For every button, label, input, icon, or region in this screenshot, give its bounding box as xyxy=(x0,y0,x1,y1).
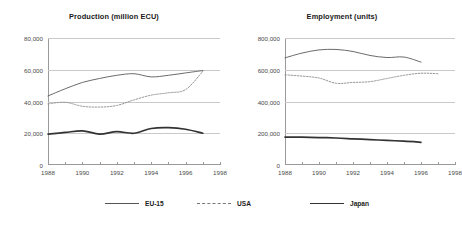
plot-area-employment: 0200,000400,000600,000800,000 1988199019… xyxy=(285,38,455,165)
y-tick-label: 20,000 xyxy=(24,130,43,137)
y-tick-label: 80,000 xyxy=(24,35,43,42)
x-tick xyxy=(220,162,221,165)
x-tick-label: 1990 xyxy=(76,169,90,176)
x-tick-label: 1988 xyxy=(278,169,292,176)
x-tick-label: 1994 xyxy=(144,169,158,176)
legend-item-usa: USA xyxy=(197,196,251,210)
chart-panel-production: Production (million ECU) 020,00040,00060… xyxy=(0,0,228,185)
chart-panel-employment: Employment (units) 0200,000400,000600,00… xyxy=(228,0,456,185)
y-tick-label: 60,000 xyxy=(24,66,43,73)
x-tick-label: 1998 xyxy=(448,169,462,176)
legend-label-usa: USA xyxy=(237,200,251,207)
legend-line-icon-eu15 xyxy=(105,200,139,206)
x-tick xyxy=(455,162,456,165)
chart-title-employment: Employment (units) xyxy=(228,12,456,21)
plot-area-production: 020,00040,00060,00080,000 19881990199219… xyxy=(48,38,220,165)
y-tick-label: 600,000 xyxy=(258,66,280,73)
y-tick-label: 200,000 xyxy=(258,130,280,137)
y-tick-label: 0 xyxy=(40,162,43,169)
legend-label-japan: Japan xyxy=(350,200,369,207)
series-line-japan xyxy=(48,128,203,134)
legend-line-icon-usa xyxy=(197,200,231,206)
series-line-usa xyxy=(48,71,203,107)
series-line-eu-15 xyxy=(285,49,421,62)
x-tick-label: 1988 xyxy=(41,169,55,176)
y-tick-label: 400,000 xyxy=(258,98,280,105)
legend-label-eu15: EU-15 xyxy=(145,200,164,207)
x-tick-label: 1992 xyxy=(110,169,124,176)
legend: EU-15 USA Japan xyxy=(0,196,456,214)
series-line-japan xyxy=(285,137,421,142)
legend-item-eu15: EU-15 xyxy=(105,196,164,210)
series-lines-production xyxy=(48,38,220,165)
x-tick-label: 1990 xyxy=(312,169,326,176)
series-line-usa xyxy=(285,73,438,83)
legend-item-japan: Japan xyxy=(310,196,369,210)
series-lines-employment xyxy=(285,38,455,165)
y-tick-label: 0 xyxy=(277,162,280,169)
y-tick-label: 40,000 xyxy=(24,98,43,105)
chart-title-production: Production (million ECU) xyxy=(0,12,228,21)
x-tick-label: 1992 xyxy=(346,169,360,176)
y-tick-label: 800,000 xyxy=(258,35,280,42)
x-tick-label: 1996 xyxy=(179,169,193,176)
x-tick-label: 1994 xyxy=(380,169,394,176)
x-tick-label: 1996 xyxy=(414,169,428,176)
x-tick-label: 1998 xyxy=(213,169,227,176)
legend-line-icon-japan xyxy=(310,200,344,206)
